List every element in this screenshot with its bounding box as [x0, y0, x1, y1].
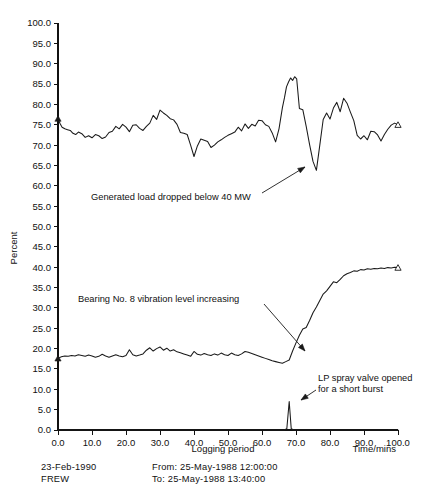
footer-to: To: 25-May-1988 13:40:00: [152, 474, 265, 484]
x-tick-label: 10.0: [83, 437, 102, 448]
annotation-arrowhead: [298, 167, 305, 173]
lp-spray-annotation-line-1: LP spray valve opened: [318, 373, 412, 383]
annotation-leaders: [262, 167, 316, 400]
x-axis-title: Time/mins: [353, 443, 397, 454]
y-axis-title: Percent: [8, 231, 19, 264]
x-tick-label: 20.0: [117, 437, 136, 448]
y-tick-label: 40.0: [33, 262, 52, 273]
y-tick-label: 95.0: [33, 38, 52, 49]
x-axis-subtitle: Logging period: [192, 443, 255, 454]
y-tick-label: 5.0: [38, 404, 51, 415]
y-tick-label: 45.0: [33, 241, 52, 252]
y-tick-label: 20.0: [33, 343, 52, 354]
series-endpoint-marker: [55, 355, 61, 361]
x-tick-label: 70.0: [287, 437, 306, 448]
lp-spray-annotation-line-2: for a short burst: [318, 384, 384, 394]
axis-lines: [58, 23, 398, 430]
x-tick-label: 30.0: [151, 437, 170, 448]
y-tick-label: 15.0: [33, 363, 52, 374]
x-tick-label: 0.0: [51, 437, 64, 448]
bearing-vibration-annotation: Bearing No. 8 vibration level increasing: [78, 294, 239, 304]
annotation-arrowhead: [301, 394, 308, 400]
footer-date: 23-Feb-1990: [41, 462, 96, 472]
generated-load-annotation: Generated load dropped below 40 MW: [91, 192, 251, 202]
y-tick-label: 35.0: [33, 282, 52, 293]
y-tick-label: 60.0: [33, 180, 52, 191]
y-tick-label: 65.0: [33, 160, 52, 171]
y-tick-label: 25.0: [33, 323, 52, 334]
series-endpoint-marker: [55, 116, 61, 122]
y-tick-label: 50.0: [33, 221, 52, 232]
y-tick-label: 55.0: [33, 201, 52, 212]
y-axis-ticks: 0.05.010.015.020.025.030.035.040.045.050…: [27, 17, 58, 435]
y-tick-label: 90.0: [33, 58, 52, 69]
y-tick-label: 0.0: [38, 424, 51, 435]
footer-user: FREW: [41, 474, 69, 484]
series-line: [58, 402, 398, 430]
y-tick-label: 70.0: [33, 140, 52, 151]
annotation-leader-line: [264, 304, 305, 351]
x-tick-label: 60.0: [253, 437, 272, 448]
y-tick-label: 75.0: [33, 119, 52, 130]
series-line: [58, 267, 398, 363]
chart-root: 0.05.010.015.020.025.030.035.040.045.050…: [0, 0, 434, 496]
annotation-leader-line: [262, 167, 305, 193]
annotation-labels: Generated load dropped below 40 MWBearin…: [78, 192, 412, 394]
y-tick-label: 10.0: [33, 384, 52, 395]
y-tick-label: 30.0: [33, 302, 52, 313]
chart-canvas: 0.05.010.015.020.025.030.035.040.045.050…: [0, 0, 434, 496]
series-endpoint-marker: [395, 122, 401, 128]
footer-from: From: 25-May-1988 12:00:00: [152, 462, 278, 472]
y-tick-label: 85.0: [33, 78, 52, 89]
y-tick-label: 100.0: [27, 17, 51, 28]
y-tick-label: 80.0: [33, 99, 52, 110]
x-tick-label: 80.0: [321, 437, 340, 448]
series-line: [58, 77, 398, 171]
